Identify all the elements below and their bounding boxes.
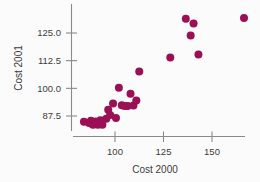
data-point [109, 99, 117, 107]
y-tick-label: 112.5 [38, 55, 61, 66]
data-point [166, 54, 174, 62]
x-axis-ticks: 100125150 [107, 132, 220, 158]
data-point [190, 19, 198, 27]
chart-canvas: 87.5100.0112.5125.0 100125150 Cost 2001 … [0, 0, 260, 182]
y-tick-label: 100.0 [37, 83, 61, 94]
data-point [112, 114, 120, 122]
x-tick-label: 100 [107, 146, 123, 157]
y-tick-label: 87.5 [43, 110, 62, 121]
data-points-layer [80, 14, 248, 129]
x-axis-title: Cost 2000 [132, 164, 178, 175]
data-point [240, 14, 248, 22]
x-tick-label: 150 [204, 146, 220, 157]
scatter-chart: 87.5100.0112.5125.0 100125150 Cost 2001 … [0, 0, 260, 182]
data-point [135, 68, 143, 76]
data-point [194, 50, 202, 58]
data-point [182, 15, 190, 23]
data-point [132, 97, 140, 105]
y-axis-title: Cost 2001 [13, 45, 24, 91]
data-point [187, 31, 195, 39]
x-tick-label: 125 [156, 146, 172, 157]
data-point [127, 90, 135, 98]
y-tick-label: 125.0 [37, 27, 61, 38]
data-point [115, 84, 123, 92]
